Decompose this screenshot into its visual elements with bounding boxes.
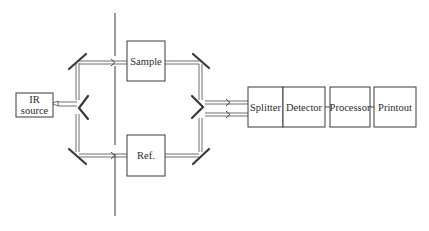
reference-box: Ref. bbox=[127, 135, 165, 176]
sample-box: Sample bbox=[127, 41, 165, 81]
splitter-label: Splitter bbox=[250, 102, 281, 113]
mirror-top-left bbox=[69, 54, 86, 69]
reference-label: Ref. bbox=[137, 150, 155, 161]
splitter-box: Splitter bbox=[248, 87, 283, 127]
detector-box: Detector bbox=[283, 87, 325, 127]
processor-box: Processor bbox=[330, 87, 371, 127]
ir-source-label-line1: IR bbox=[29, 94, 40, 105]
printout-box: Printout bbox=[374, 87, 416, 127]
v-mirror-right bbox=[192, 96, 203, 118]
processor-label: Processor bbox=[330, 102, 371, 113]
v-mirror-left bbox=[79, 96, 88, 119]
ir-spectrometer-diagram: IR source bbox=[0, 0, 429, 231]
detector-label: Detector bbox=[286, 102, 323, 113]
mirror-bottom-left bbox=[69, 149, 86, 164]
ir-source-box: IR source bbox=[16, 93, 53, 117]
mirror-bottom-right bbox=[193, 149, 209, 164]
printout-label: Printout bbox=[378, 102, 412, 113]
sample-label: Sample bbox=[130, 56, 162, 67]
ir-source-label-line2: source bbox=[21, 105, 49, 116]
